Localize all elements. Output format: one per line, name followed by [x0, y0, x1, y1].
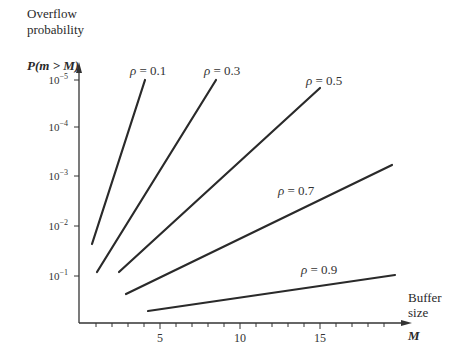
y-tick-label-1e-1: 10−1 — [28, 268, 68, 282]
series-label-rho-0.3: ρ = 0.3 — [204, 63, 240, 79]
y-axis-arrow-icon — [76, 62, 82, 73]
chart-plot-area — [0, 0, 454, 352]
series-label-rho-0.9: ρ = 0.9 — [301, 262, 337, 278]
y-tick-label-1e-4: 10−4 — [28, 119, 68, 133]
x-axis-arrow-icon — [401, 320, 412, 326]
series-line-rho-0.1 — [92, 80, 145, 244]
series-label-rho-0.7: ρ = 0.7 — [278, 183, 314, 199]
x-axis-title-line2: size — [408, 305, 442, 320]
y-tick-label-1e-5: 10−5 — [28, 72, 68, 86]
y-ticks — [74, 80, 79, 276]
series-label-rho-0.5: ρ = 0.5 — [306, 73, 342, 89]
y-tick-label-1e-2: 10−2 — [28, 218, 68, 232]
series-line-rho-0.9 — [148, 275, 395, 311]
series-line-rho-0.5 — [119, 88, 320, 272]
series-label-rho-0.1: ρ = 0.1 — [130, 63, 166, 79]
x-axis-title: Buffer size — [408, 290, 442, 320]
x-tick-label-15: 15 — [305, 331, 335, 346]
x-tick-label-10: 10 — [225, 331, 255, 346]
x-tick-label-5: 5 — [145, 331, 175, 346]
x-axis-math-label: M — [408, 328, 420, 344]
y-tick-label-1e-3: 10−3 — [28, 168, 68, 182]
x-axis-title-line1: Buffer — [408, 290, 442, 305]
x-ticks — [96, 323, 384, 329]
